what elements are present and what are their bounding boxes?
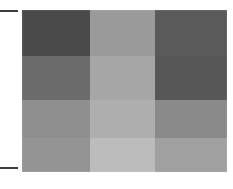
axis-tick-top — [0, 10, 18, 12]
heatmap-grid — [22, 10, 227, 172]
heatmap-cell — [90, 100, 155, 138]
heatmap-cell — [90, 138, 155, 172]
heatmap-cell — [155, 56, 227, 100]
heatmap-cell — [22, 138, 90, 172]
heatmap-cell — [155, 10, 227, 56]
heatmap-cell — [22, 56, 90, 100]
heatmap-cell — [22, 10, 90, 56]
figure-canvas — [0, 0, 233, 189]
heatmap-cell — [155, 100, 227, 138]
heatmap-cell — [90, 56, 155, 100]
axis-tick-bottom — [0, 167, 18, 169]
heatmap-cell — [90, 10, 155, 56]
heatmap-cell — [22, 100, 90, 138]
heatmap-cell — [155, 138, 227, 172]
